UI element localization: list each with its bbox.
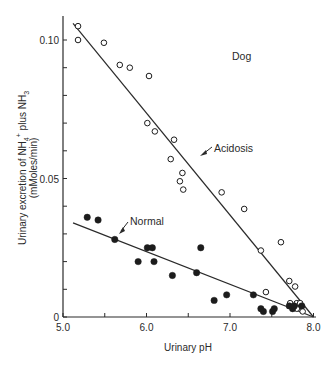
normal-data-point bbox=[193, 269, 199, 275]
acidosis-label: Acidosis bbox=[214, 142, 253, 154]
x-axis-label: Urinary pH bbox=[164, 342, 212, 353]
x-ticks: 5.06.07.08.0 bbox=[56, 313, 321, 333]
normal-data-point bbox=[169, 272, 175, 278]
normal-data-point bbox=[299, 303, 305, 309]
data-points bbox=[75, 23, 305, 314]
x-tick-label: 8.0 bbox=[307, 322, 321, 333]
acidosis-data-point bbox=[286, 278, 292, 284]
acidosis-data-point bbox=[75, 23, 81, 29]
x-tick-label: 5.0 bbox=[56, 322, 70, 333]
acidosis-data-point bbox=[101, 40, 107, 46]
normal-fit-line bbox=[73, 223, 313, 317]
y-axis-label-units: (mMoles/min) bbox=[28, 138, 39, 199]
normal-data-point bbox=[223, 292, 229, 298]
x-tick-label: 6.0 bbox=[140, 322, 154, 333]
acidosis-data-point bbox=[180, 187, 186, 193]
acidosis-data-point bbox=[219, 190, 225, 196]
acidosis-data-point bbox=[177, 178, 183, 184]
y-tick-label: 0 bbox=[53, 312, 59, 323]
normal-data-point bbox=[135, 258, 141, 264]
acidosis-annotation: Acidosis bbox=[200, 142, 253, 156]
normal-data-point bbox=[260, 308, 266, 314]
acidosis-arrowhead-icon bbox=[200, 150, 207, 156]
y-tick-label: 0.05 bbox=[40, 174, 60, 185]
acidosis-data-point bbox=[292, 284, 298, 290]
normal-data-point bbox=[151, 258, 157, 264]
normal-label: Normal bbox=[130, 215, 164, 227]
normal-data-point bbox=[271, 305, 277, 311]
acidosis-data-point bbox=[241, 206, 247, 212]
y-tick-label: 0.10 bbox=[40, 35, 60, 46]
acidosis-data-point bbox=[168, 156, 174, 162]
acidosis-data-point bbox=[146, 73, 152, 79]
acidosis-data-point bbox=[258, 248, 264, 254]
y-axis-label: Urinary excretion of NH4+ plus NH3 (mMol… bbox=[15, 91, 39, 245]
acidosis-data-point bbox=[278, 239, 284, 245]
scatter-chart: 5.06.07.08.0 00.050.10 Dog Acidosis Norm… bbox=[0, 0, 336, 365]
x-tick-label: 7.0 bbox=[223, 322, 237, 333]
normal-data-point bbox=[198, 245, 204, 251]
normal-data-point bbox=[84, 214, 90, 220]
normal-data-point bbox=[112, 236, 118, 242]
normal-annotation: Normal bbox=[119, 215, 164, 234]
normal-data-point bbox=[95, 217, 101, 223]
panel-label: Dog bbox=[232, 50, 251, 62]
normal-data-point bbox=[250, 292, 256, 298]
normal-data-point bbox=[291, 303, 297, 309]
normal-data-point bbox=[211, 297, 217, 303]
acidosis-data-point bbox=[180, 170, 186, 176]
normal-data-point bbox=[149, 245, 155, 251]
acidosis-data-point bbox=[127, 65, 133, 71]
normal-arrowhead-icon bbox=[119, 227, 125, 234]
acidosis-data-point bbox=[263, 289, 269, 295]
acidosis-data-point bbox=[300, 309, 306, 315]
acidosis-data-point bbox=[117, 62, 123, 68]
acidosis-data-point bbox=[75, 37, 81, 43]
acidosis-data-point bbox=[145, 120, 151, 126]
acidosis-data-point bbox=[152, 129, 158, 135]
acidosis-data-point bbox=[171, 137, 177, 143]
